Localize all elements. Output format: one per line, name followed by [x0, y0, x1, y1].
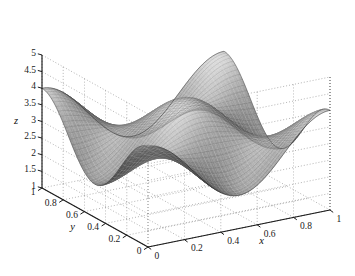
- z-tick-label: 2.5: [24, 132, 36, 142]
- y-tick-label: 0.4: [87, 223, 99, 233]
- x-tick-label: 0.8: [300, 222, 312, 232]
- x-tick-label: 0.2: [191, 244, 203, 254]
- y-tick-label: 0: [137, 247, 142, 257]
- x-axis-label: x: [259, 235, 264, 246]
- y-axis-label: y: [70, 221, 75, 232]
- z-tick-label: 4.5: [24, 66, 36, 76]
- y-tick-label: 0.2: [108, 235, 120, 245]
- z-tick-label: 1.5: [24, 166, 36, 176]
- figure-canvas: 54.543.532.521.5110.80.60.40.2000.20.40.…: [0, 0, 355, 276]
- z-tick-label: 3: [31, 116, 36, 126]
- x-tick-label: 0: [155, 252, 160, 262]
- z-tick-label: 4: [31, 83, 36, 93]
- y-tick-label: 1: [31, 188, 36, 198]
- z-axis-label: z: [14, 115, 18, 126]
- x-tick-label: 1: [337, 215, 342, 225]
- z-tick-label: 2: [31, 149, 36, 159]
- x-tick-label: 0.6: [264, 230, 276, 240]
- mesh-surface: [42, 51, 330, 196]
- surface-plot-svg: [0, 0, 355, 276]
- x-tick-label: 0.4: [227, 237, 239, 247]
- y-tick-label: 0.8: [45, 200, 57, 210]
- z-tick-label: 5: [31, 49, 36, 59]
- z-tick-label: 3.5: [24, 99, 36, 109]
